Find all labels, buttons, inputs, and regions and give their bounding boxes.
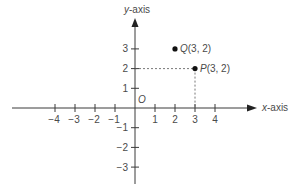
- point-p-marker: [192, 66, 197, 71]
- point-q-marker: [172, 46, 177, 51]
- x-tick-label: −2: [88, 114, 100, 125]
- x-tick-label: −3: [68, 114, 80, 125]
- x-axis-arrow-icon: [247, 105, 257, 112]
- y-tick-label: 2: [122, 63, 128, 74]
- y-tick-label: −2: [117, 142, 129, 153]
- y-tick-label: −1: [117, 122, 129, 133]
- x-tick-label: 3: [192, 114, 198, 125]
- x-tick-label: 4: [212, 114, 218, 125]
- y-tick-label: 3: [122, 43, 128, 54]
- plotted-points: Q(3, 2)P(3, 2): [172, 43, 230, 74]
- x-axis-ticks: −4−3−2−11234: [48, 104, 218, 125]
- y-axis-arrow-icon: [132, 18, 139, 27]
- y-axis-label: y-axis: [123, 4, 150, 15]
- x-tick-label: 1: [152, 114, 158, 125]
- origin-label: O: [138, 94, 146, 105]
- y-tick-label: −3: [117, 162, 129, 173]
- point-p-label: P(3, 2): [200, 63, 230, 74]
- x-axis-label: x-axis: [261, 102, 288, 113]
- x-tick-label: 2: [172, 114, 178, 125]
- y-tick-label: 1: [122, 83, 128, 94]
- coordinate-plane: x-axis y-axis O −4−3−2−11234 321−1−2−3 Q…: [0, 0, 294, 191]
- x-tick-label: −4: [48, 114, 60, 125]
- point-q-label: Q(3, 2): [180, 43, 211, 54]
